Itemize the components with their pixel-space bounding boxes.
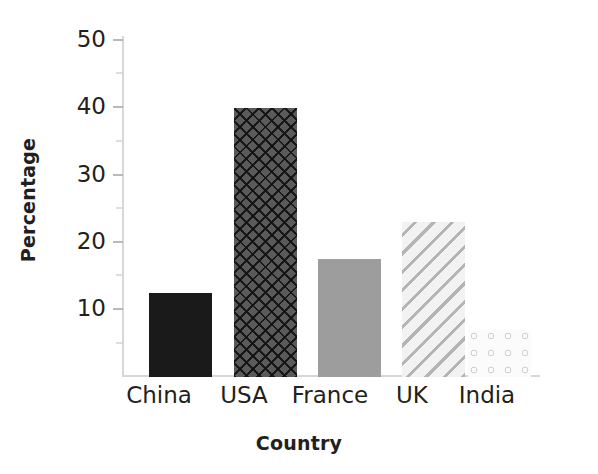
bar-china[interactable] <box>149 293 212 377</box>
y-tick-label-40: 40 <box>52 95 106 118</box>
x-tick-label-uk: UK <box>373 382 451 408</box>
x-tick-label-india: India <box>448 382 526 408</box>
bar-france[interactable] <box>318 259 381 377</box>
bar-usa[interactable] <box>234 108 297 377</box>
bar-uk[interactable] <box>402 222 465 377</box>
y-tick-label-20: 20 <box>52 230 106 253</box>
y-tick-label-10: 10 <box>52 297 106 320</box>
plot-area <box>122 34 540 377</box>
y-tick-label-30: 30 <box>52 163 106 186</box>
y-axis-title-text: Percentage <box>17 138 39 262</box>
x-axis-title: Country <box>0 432 598 454</box>
y-tick-label-50: 50 <box>52 28 106 51</box>
x-tick-label-usa: USA <box>205 382 283 408</box>
bar-chart: Percentage 50 40 30 20 10 China USA Fran… <box>0 0 598 474</box>
x-tick-label-china: China <box>120 382 198 408</box>
y-axis-title: Percentage <box>8 0 48 400</box>
x-tick-label-france: France <box>288 382 372 408</box>
bar-india[interactable] <box>468 330 531 377</box>
